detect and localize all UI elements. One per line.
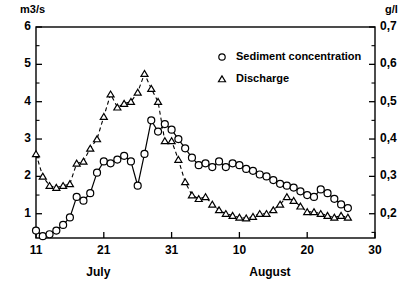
- left-tick-label-6: 6: [9, 19, 31, 33]
- right-tick-label-1: 0,3: [380, 168, 410, 182]
- right-axis-unit-label: g/l: [385, 3, 398, 15]
- month-label-august: August: [235, 265, 305, 279]
- x-axis-ticks: [36, 232, 375, 238]
- left-axis-ticks: [36, 27, 42, 232]
- left-tick-label-3: 3: [9, 131, 31, 145]
- right-tick-label-0: 0,2: [380, 206, 410, 220]
- right-tick-label-5: 0,7: [380, 19, 410, 33]
- legend-markers: [218, 54, 225, 82]
- left-axis-unit-label: m3/s: [20, 3, 45, 15]
- left-tick-label-4: 4: [9, 94, 31, 108]
- left-tick-label-1: 1: [9, 206, 31, 220]
- right-tick-label-4: 0,6: [380, 56, 410, 70]
- x-tick-label-0: 11: [19, 243, 53, 257]
- left-tick-label-2: 2: [9, 168, 31, 182]
- right-tick-label-2: 0,4: [380, 131, 410, 145]
- x-tick-label-3: 10: [222, 243, 256, 257]
- legend-label-discharge: Discharge: [236, 72, 289, 84]
- left-tick-label-5: 5: [9, 56, 31, 70]
- x-tick-label-5: 30: [358, 243, 392, 257]
- chart-plot-area: [0, 0, 415, 291]
- x-tick-label-4: 20: [290, 243, 324, 257]
- right-tick-label-3: 0,5: [380, 94, 410, 108]
- month-label-july: July: [63, 265, 133, 279]
- chart-figure: m3/s g/l 123456 0,20,30,40,50,60,7 11213…: [0, 0, 415, 291]
- series-sediment: [33, 117, 352, 240]
- legend-label-sediment-concentration: Sediment concentration: [236, 50, 361, 62]
- x-tick-label-1: 21: [87, 243, 121, 257]
- x-tick-label-2: 31: [155, 243, 189, 257]
- right-axis-ticks: [369, 27, 375, 232]
